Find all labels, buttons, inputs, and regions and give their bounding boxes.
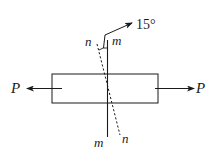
force-label-left: P — [10, 80, 20, 96]
section-label-n-bottom: n — [122, 131, 129, 146]
section-label-n-top: n — [85, 34, 92, 49]
bar-rectangle — [52, 74, 158, 103]
section-label-m-top: m — [112, 33, 121, 48]
angle-arc — [99, 48, 108, 50]
bar-tension-diagram: P P m n m n 15° — [0, 0, 216, 158]
section-line-n — [97, 44, 120, 135]
force-label-right: P — [195, 80, 205, 96]
section-label-m-bottom: m — [94, 135, 103, 150]
angle-label: 15° — [136, 17, 156, 32]
